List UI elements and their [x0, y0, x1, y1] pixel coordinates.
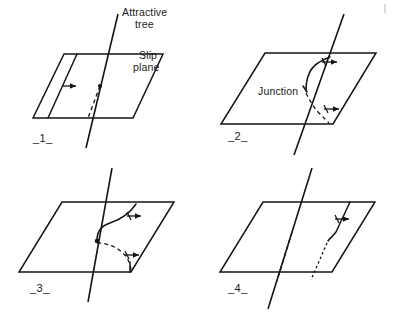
attractive-tree-label-line1: Attractive	[122, 6, 167, 18]
motion-arrow-lower-3	[125, 251, 139, 259]
dislocation-slip-plane-figure: Attractive tree Slip plane _1_	[0, 0, 396, 315]
motion-arrow-1	[63, 83, 76, 89]
panel-1: Attractive tree Slip plane _1_	[32, 6, 167, 148]
panel-2: Junction _2_	[221, 14, 376, 155]
attractive-tree-line-1	[86, 14, 118, 148]
slip-plane-parallelogram-2	[221, 53, 376, 124]
dislocation-node-dot-1	[98, 84, 102, 88]
motion-arrow-4	[335, 215, 349, 223]
slip-plane-label-line1: Slip	[139, 49, 157, 61]
panel-number-2: _2_	[227, 130, 248, 142]
panel-number-3: _3_	[29, 282, 50, 294]
attractive-tree-line-4	[268, 168, 312, 309]
attractive-tree-line-3	[88, 168, 112, 302]
attractive-tree-label-line2: tree	[135, 18, 154, 30]
dislocation-line-dotted-4	[311, 243, 327, 280]
slip-plane-label-line2: plane	[133, 61, 159, 73]
dislocation-line-solid-4	[328, 202, 350, 241]
panel-number-4: _4_	[227, 282, 248, 294]
figure-container: Attractive tree Slip plane _1_	[0, 0, 396, 315]
motion-arrow-upper-3	[127, 212, 141, 220]
panel-number-1: _1_	[32, 132, 53, 144]
panel-4: _4_	[220, 168, 375, 309]
attractive-tree-line-2	[294, 14, 344, 155]
junction-label: Junction	[258, 85, 298, 97]
panel-3: _3_	[19, 168, 174, 302]
dislocation-arm-lower-3	[97, 243, 131, 271]
motion-arrow-lower-2	[324, 105, 339, 113]
